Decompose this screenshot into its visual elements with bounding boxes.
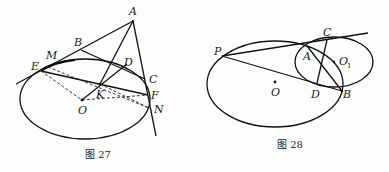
dashed-of (82, 95, 148, 100)
line-ema (16, 21, 133, 84)
geometry-figures: A B M E D C K F O N 图 27 P C A O 1 D B (0, 0, 389, 172)
label-p: P (213, 45, 222, 58)
ellipse-o (207, 41, 343, 127)
segment-pb (222, 56, 342, 91)
line-pc (222, 33, 368, 56)
label-e: E (30, 60, 39, 73)
diagram-canvas: A B M E D C K F O N 图 27 P C A O 1 D B (0, 0, 389, 172)
label-b: B (73, 36, 82, 49)
point-o (81, 99, 84, 102)
point-a (132, 20, 134, 22)
dashed-kn (100, 84, 149, 108)
caption-fig28: 图 28 (277, 139, 303, 150)
label-c: C (149, 73, 158, 86)
caption-fig27: 图 27 (85, 149, 111, 160)
label-a: A (128, 5, 137, 18)
point-o (274, 81, 277, 84)
label-o: O (78, 104, 87, 117)
figure-28: P C A O 1 D B O 图 28 (207, 26, 373, 150)
label-d: D (310, 88, 320, 101)
label-a: A (302, 50, 311, 63)
point-k (99, 83, 101, 85)
label-o: O (271, 86, 280, 99)
label-f: F (150, 89, 159, 102)
label-c: C (323, 26, 332, 39)
label-m: M (45, 49, 58, 62)
segment-ef (41, 71, 148, 95)
label-o1-subscript: 1 (347, 62, 351, 70)
label-b: B (342, 88, 351, 101)
point-o1 (333, 61, 335, 63)
label-k: K (95, 88, 105, 101)
label-d: D (123, 56, 133, 69)
figure-27: A B M E D C K F O N 图 27 (16, 5, 164, 160)
label-n: N (153, 103, 164, 116)
